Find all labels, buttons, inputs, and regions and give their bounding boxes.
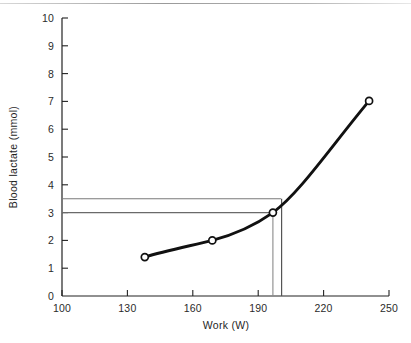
y-tick-label-10: 10	[28, 12, 54, 24]
x-tick-label-130: 130	[118, 302, 136, 314]
y-axis-ticks	[62, 18, 68, 268]
y-axis-title: Blood lactate (mmol)	[7, 106, 19, 208]
data-point-markers	[141, 97, 372, 260]
x-tick-label-220: 220	[315, 302, 333, 314]
blood-lactate-work-chart: 0 1 2 3 4 5 6 7 8 9 10 100 130 160 190 2…	[0, 0, 411, 343]
x-tick-label-190: 190	[249, 302, 267, 314]
y-tick-label-6: 6	[30, 123, 54, 135]
x-tick-label-250: 250	[380, 302, 398, 314]
y-tick-label-9: 9	[30, 40, 54, 52]
y-tick-label-1: 1	[30, 262, 54, 274]
data-point	[366, 97, 373, 104]
y-tick-label-7: 7	[30, 95, 54, 107]
x-tick-label-160: 160	[184, 302, 202, 314]
y-tick-label-4: 4	[30, 179, 54, 191]
y-tick-label-2: 2	[30, 234, 54, 246]
x-tick-label-100: 100	[53, 302, 71, 314]
lactate-curve	[145, 101, 369, 257]
x-axis-title: Work (W)	[203, 319, 250, 331]
data-point	[209, 237, 216, 244]
data-point	[269, 209, 276, 216]
y-tick-label-0: 0	[30, 290, 54, 302]
x-axis-ticks	[62, 290, 389, 296]
y-tick-label-8: 8	[30, 68, 54, 80]
plot-area	[0, 0, 411, 343]
y-tick-label-5: 5	[30, 151, 54, 163]
data-point	[141, 254, 148, 261]
y-tick-label-3: 3	[30, 207, 54, 219]
